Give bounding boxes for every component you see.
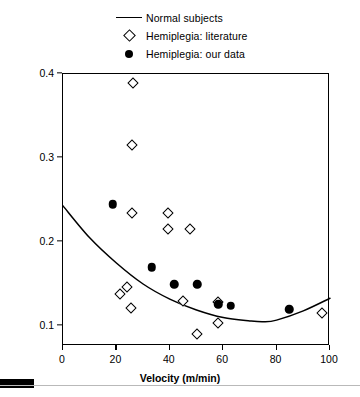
data-point-our-data — [148, 263, 157, 272]
footer-divider — [0, 385, 360, 386]
data-point-our-data — [193, 280, 202, 289]
legend-item-normal-subjects: Normal subjects — [112, 10, 247, 25]
y-tick-label: 0.1 — [24, 319, 54, 331]
legend-label-hemiplegia-literature: Hemiplegia: literature — [146, 30, 247, 42]
legend-label-normal-subjects: Normal subjects — [146, 12, 223, 24]
footer-marker-block — [0, 379, 34, 388]
legend-label-hemiplegia-our-data: Hemiplegia: our data — [146, 48, 245, 60]
x-tick-label: 40 — [152, 353, 186, 365]
plot-area — [62, 73, 329, 345]
figure-container: Normal subjects Hemiplegia: literature H… — [0, 0, 360, 397]
data-point-our-data — [285, 305, 294, 314]
chart-legend: Normal subjects Hemiplegia: literature H… — [112, 10, 247, 61]
y-tick-label: 0.4 — [24, 67, 54, 79]
x-tick-label: 80 — [259, 353, 293, 365]
legend-item-hemiplegia-our-data: Hemiplegia: our data — [112, 46, 247, 61]
data-point-our-data — [109, 200, 118, 209]
x-tick-label: 0 — [45, 353, 79, 365]
x-axis-title: Velocity (m/min) — [0, 372, 360, 384]
x-tick-label: 100 — [312, 353, 346, 365]
y-tick-label: 0.3 — [24, 151, 54, 163]
data-point-our-data — [170, 280, 179, 289]
data-point-our-data — [214, 300, 223, 309]
line-swatch-icon — [112, 17, 146, 19]
data-point-our-data — [227, 302, 236, 311]
y-tick-label: 0.2 — [24, 235, 54, 247]
x-tick-label: 60 — [205, 353, 239, 365]
legend-item-hemiplegia-literature: Hemiplegia: literature — [112, 28, 247, 43]
filled-circle-swatch-icon — [112, 50, 146, 58]
x-tick-label: 20 — [98, 353, 132, 365]
open-diamond-swatch-icon — [112, 31, 146, 40]
